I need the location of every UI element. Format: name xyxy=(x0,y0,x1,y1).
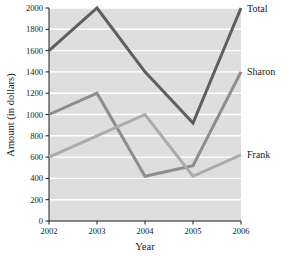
y-tick-label: 1800 xyxy=(26,24,43,34)
chart-svg: 0200400600800100012001400160018002000 20… xyxy=(0,0,289,256)
y-axis-title: Amount (in dollars) xyxy=(5,73,17,157)
y-tick-label: 1000 xyxy=(26,110,43,120)
y-axis-ticks: 0200400600800100012001400160018002000 xyxy=(26,3,49,226)
y-tick-label: 1200 xyxy=(26,88,43,98)
x-tick-label: 2005 xyxy=(185,226,202,236)
x-tick-label: 2004 xyxy=(137,226,155,236)
x-tick-label: 2006 xyxy=(233,226,250,236)
x-axis-ticks: 20022003200420052006 xyxy=(41,221,250,236)
x-axis-title: Year xyxy=(135,241,155,252)
x-tick-label: 2003 xyxy=(89,226,106,236)
y-tick-label: 200 xyxy=(30,195,43,205)
series-label-frank: Frank xyxy=(247,149,270,160)
series-label-sharon: Sharon xyxy=(247,66,275,77)
x-tick-label: 2002 xyxy=(41,226,58,236)
y-tick-label: 1400 xyxy=(26,67,43,77)
y-tick-label: 400 xyxy=(30,173,43,183)
y-tick-label: 1600 xyxy=(26,46,43,56)
series-labels: TotalSharonFrank xyxy=(247,3,275,161)
series-label-total: Total xyxy=(247,3,268,14)
y-tick-label: 800 xyxy=(30,131,43,141)
y-tick-label: 0 xyxy=(39,216,43,226)
line-chart: 0200400600800100012001400160018002000 20… xyxy=(0,0,289,256)
y-tick-label: 2000 xyxy=(26,3,43,13)
y-tick-label: 600 xyxy=(30,152,43,162)
